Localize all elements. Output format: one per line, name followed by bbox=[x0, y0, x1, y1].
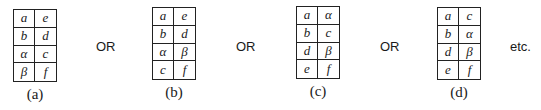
cell: β bbox=[318, 43, 339, 61]
cell: f bbox=[459, 61, 480, 79]
cell: b bbox=[297, 25, 318, 43]
cell: b bbox=[438, 26, 459, 44]
cell: e bbox=[174, 8, 195, 26]
cell: a bbox=[297, 7, 318, 25]
cell: f bbox=[174, 61, 195, 79]
cell: d bbox=[438, 44, 459, 62]
cell: c bbox=[35, 46, 56, 64]
figure-label-a: (a) bbox=[13, 86, 57, 103]
cell: a bbox=[438, 8, 459, 26]
grid-d: a c b α d β e f bbox=[437, 7, 481, 80]
trailing-etc: etc. bbox=[510, 39, 531, 54]
cell: e bbox=[297, 60, 318, 78]
cell: b bbox=[14, 28, 35, 46]
cell: β bbox=[459, 44, 480, 62]
separator-or-3: OR bbox=[380, 39, 400, 54]
cell: f bbox=[35, 63, 56, 81]
cell: α bbox=[14, 46, 35, 64]
separator-or-2: OR bbox=[236, 39, 256, 54]
cell: β bbox=[174, 44, 195, 62]
cell: b bbox=[153, 26, 174, 44]
cell: c bbox=[153, 61, 174, 79]
cell: e bbox=[35, 10, 56, 28]
figure-label-d: (d) bbox=[437, 84, 481, 101]
cell: c bbox=[459, 8, 480, 26]
cell: α bbox=[459, 26, 480, 44]
separator-or-1: OR bbox=[96, 39, 116, 54]
cell: d bbox=[174, 26, 195, 44]
cell: d bbox=[35, 28, 56, 46]
cell: α bbox=[318, 7, 339, 25]
cell: α bbox=[153, 44, 174, 62]
cell: a bbox=[14, 10, 35, 28]
grid-c: a α b c d β e f bbox=[296, 6, 340, 79]
figure-label-c: (c) bbox=[296, 83, 340, 100]
cell: d bbox=[297, 43, 318, 61]
cell: f bbox=[318, 60, 339, 78]
cell: e bbox=[438, 61, 459, 79]
cell: c bbox=[318, 25, 339, 43]
cell: a bbox=[153, 8, 174, 26]
figure-label-b: (b) bbox=[152, 84, 196, 101]
grid-b: a e b d α β c f bbox=[152, 7, 196, 80]
grid-a: a e b d α c β f bbox=[13, 9, 57, 82]
cell: β bbox=[14, 63, 35, 81]
